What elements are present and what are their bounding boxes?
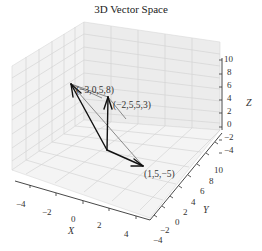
y-tick-label: 8 — [209, 176, 214, 186]
x-tick-label: −2 — [42, 207, 52, 217]
vector-label-v2: (−2,5,5,3) — [113, 100, 151, 111]
z-tick-label: 10 — [224, 54, 234, 64]
x-axis-label: X — [67, 225, 75, 236]
y-tick-label: −4 — [153, 235, 163, 245]
z-tick-label: 4 — [227, 93, 232, 103]
x-tick-label: 0 — [71, 214, 76, 224]
x-tick-label: 4 — [124, 229, 129, 239]
z-ticks: −4 −2 0 2 4 6 8 10 Z — [219, 54, 252, 155]
x-tick-label: −4 — [16, 199, 26, 209]
x-tick-label: 2 — [97, 220, 102, 230]
chart-title: 3D Vector Space — [0, 3, 262, 15]
z-tick-label: 8 — [227, 67, 232, 77]
y-tick-label: 6 — [200, 186, 205, 196]
vector-label-sum: (−3,0,5,8) — [76, 85, 114, 96]
z-tick-label: −2 — [224, 132, 234, 142]
z-tick-label: 2 — [227, 106, 232, 116]
z-axis-label: Z — [246, 97, 252, 108]
y-tick-label: 10 — [214, 165, 224, 175]
z-tick-label: 6 — [227, 80, 232, 90]
vector-label-v1: (1,5,−5) — [144, 169, 175, 180]
z-tick-label: 0 — [227, 119, 232, 129]
plot-3d-axes: −4 −2 0 2 4 X −4 −2 0 2 4 6 — [0, 0, 262, 251]
y-tick-label: 4 — [191, 197, 196, 207]
y-axis-label: Y — [203, 204, 210, 215]
y-tick-label: 0 — [175, 217, 180, 227]
z-tick-label: −4 — [224, 145, 234, 155]
y-tick-label: 2 — [183, 207, 188, 217]
figure: 3D Vector Space — [0, 0, 262, 251]
y-tick-label: −2 — [160, 225, 170, 235]
